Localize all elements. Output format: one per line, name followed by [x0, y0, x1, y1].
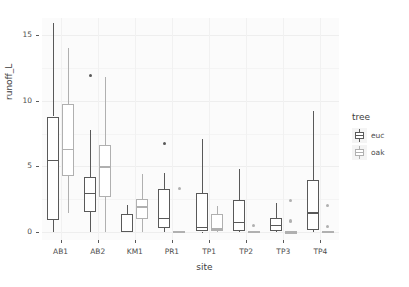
plot-panel	[42, 18, 339, 240]
x-tick-label-AB1: AB1	[53, 247, 68, 256]
legend-label-oak: oak	[371, 148, 385, 157]
x-tick-mark	[98, 240, 99, 243]
x-tick-mark	[61, 240, 62, 243]
x-tick-label-TP2: TP2	[239, 247, 253, 256]
x-tick-mark	[172, 240, 173, 243]
boxplot-figure: 051015 AB1AB2KM1PR1TP1TP2TP3TP4 site run…	[0, 0, 409, 287]
x-tick-mark	[283, 240, 284, 243]
x-tick-label-KM1: KM1	[127, 247, 143, 256]
y-tick-mark	[36, 232, 39, 233]
x-axis-title: site	[0, 262, 409, 272]
x-tick-mark	[246, 240, 247, 243]
x-tick-label-PR1: PR1	[165, 247, 180, 256]
y-tick-label: 5	[4, 161, 32, 170]
y-tick-mark	[36, 35, 39, 36]
y-tick-mark	[36, 166, 39, 167]
y-tick-label: 15	[4, 30, 32, 39]
x-tick-mark	[135, 240, 136, 243]
legend-item-oak[interactable]: oak	[352, 144, 409, 161]
outlier-point	[326, 225, 329, 228]
legend-key-oak-icon	[352, 145, 367, 160]
x-tick-label-AB2: AB2	[90, 247, 105, 256]
x-tick-label-TP1: TP1	[202, 247, 216, 256]
legend-title: tree	[352, 112, 409, 122]
y-tick-label: 0	[4, 227, 32, 236]
outlier-point	[326, 204, 329, 207]
legend-label-euc: euc	[371, 131, 385, 140]
legend-key-euc-icon	[352, 128, 367, 143]
y-axis-title: runoff_L	[4, 64, 14, 100]
legend: tree euc oak	[352, 112, 409, 161]
x-tick-mark	[320, 240, 321, 243]
x-tick-mark	[209, 240, 210, 243]
box-flat	[322, 231, 334, 233]
x-tick-label-TP4: TP4	[313, 247, 327, 256]
x-tick-label-TP3: TP3	[276, 247, 290, 256]
y-tick-mark	[36, 101, 39, 102]
legend-item-euc[interactable]: euc	[352, 127, 409, 144]
boxplot-oak-TP4	[42, 18, 339, 240]
